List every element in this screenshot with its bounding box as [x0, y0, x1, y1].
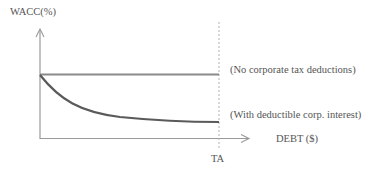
with-tax-label: (With deductible corp. interest) — [230, 109, 362, 121]
wacc-diagram: WACC(%) (No corporate tax deductions) (W… — [0, 0, 379, 173]
y-axis-label: WACC(%) — [10, 6, 57, 18]
x-axis-label: DEBT ($) — [276, 133, 319, 145]
with-tax-curve — [40, 75, 219, 122]
no-tax-label: (No corporate tax deductions) — [230, 64, 356, 76]
ta-tick-label: TA — [211, 153, 225, 164]
